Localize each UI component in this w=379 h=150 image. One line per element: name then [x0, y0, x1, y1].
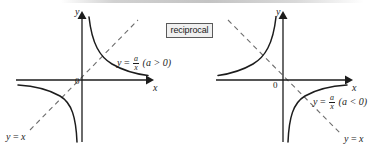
- equation-fraction-left: a x: [133, 55, 139, 73]
- equation-lhs-left: y: [117, 57, 121, 68]
- asymptote-label-right: y = x: [344, 133, 364, 144]
- asymptote-rhs-right: x: [359, 133, 363, 144]
- equation-numerator-right: a: [329, 94, 335, 102]
- y-axis-label-right: y: [276, 6, 280, 17]
- asymptote-rhs-left: x: [21, 131, 25, 142]
- equation-denominator-left: x: [133, 63, 139, 72]
- equation-equals-left: =: [124, 57, 130, 68]
- dashed-line-y-equals-x-left: [30, 20, 138, 130]
- equation-fraction-right: a x: [329, 94, 335, 112]
- equation-lhs-right: y: [313, 96, 317, 107]
- graph-negative-a: [216, 11, 353, 142]
- hyperbola-branch-q3-left: [18, 85, 77, 142]
- x-axis-label-right: x: [352, 82, 356, 93]
- asymptote-lhs-right: y: [344, 133, 348, 144]
- equation-label-positive-a: y = a x (a > 0): [117, 55, 171, 73]
- equation-label-negative-a: y = a x (a < 0): [313, 94, 367, 112]
- x-axis-label-left: x: [153, 82, 157, 93]
- y-axis-label-left: y: [75, 6, 79, 17]
- equation-denominator-right: x: [329, 102, 335, 111]
- equation-condition-right: (a < 0): [339, 96, 367, 107]
- asymptote-equals-right: =: [351, 133, 357, 144]
- origin-label-left: 0: [75, 76, 80, 86]
- reciprocal-tag-box: reciprocal: [166, 23, 213, 38]
- dashed-line-y-equals-x-right: [228, 20, 340, 133]
- equation-equals-right: =: [320, 96, 326, 107]
- hyperbola-branch-q2-right: [218, 17, 276, 76]
- asymptote-lhs-left: y: [6, 131, 10, 142]
- asymptote-label-left: y = x: [6, 131, 26, 142]
- figure-canvas: reciprocal y x 0 y = a x (a > 0) y = x y…: [0, 0, 379, 150]
- asymptote-equals-left: =: [13, 131, 19, 142]
- equation-condition-left: (a > 0): [143, 57, 171, 68]
- origin-label-right: 0: [273, 80, 278, 90]
- graph-positive-a: [16, 11, 154, 142]
- equation-numerator-left: a: [133, 55, 139, 63]
